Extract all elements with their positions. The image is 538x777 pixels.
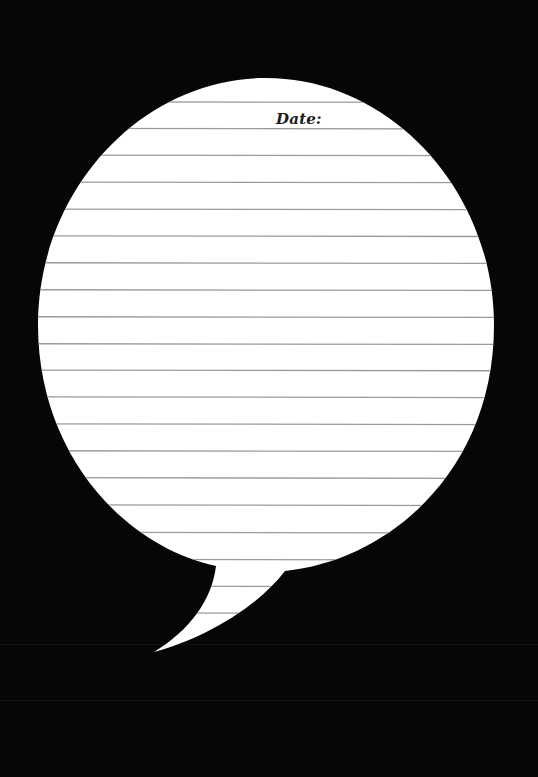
ruled-line: [0, 155, 538, 156]
ruled-line: [0, 613, 538, 614]
ruled-line: [0, 424, 538, 425]
ruled-line: [0, 236, 538, 237]
ruled-line: [0, 586, 538, 587]
date-label: Date:: [276, 110, 322, 128]
ruled-line: [0, 317, 538, 318]
ruled-line: [0, 102, 538, 103]
ruled-line: [0, 478, 538, 479]
ruled-line: [0, 370, 538, 371]
black-background: Date:: [0, 0, 538, 777]
speech-bubble: [0, 0, 538, 777]
ruled-line: [0, 532, 538, 533]
ruled-line: [0, 505, 538, 506]
ruled-line: [0, 128, 538, 129]
ruled-line: [0, 290, 538, 291]
ruled-line: [0, 559, 538, 560]
ruled-line: [0, 209, 538, 210]
ruled-line: [0, 344, 538, 345]
ruled-line: [0, 182, 538, 183]
ruled-line: [0, 263, 538, 264]
bubble-fill: [38, 78, 494, 652]
ruled-line: [0, 451, 538, 452]
ruled-line: [0, 397, 538, 398]
